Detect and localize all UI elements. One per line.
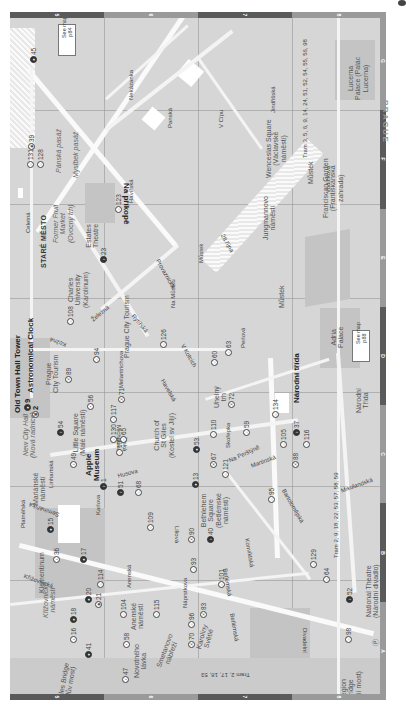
poi-115[interactable]: ○115 [153, 600, 160, 618]
poi-114[interactable]: ○114 [97, 570, 104, 588]
sleep-icon: • [87, 403, 94, 410]
label-anenske-namesti: Anenské náměstí [130, 603, 145, 630]
poi-54[interactable]: ♪54 [57, 421, 64, 436]
poi-116[interactable]: ○116 [303, 430, 310, 448]
poi-64[interactable]: ○64 [323, 568, 330, 583]
poi-59[interactable]: ○59 [243, 421, 250, 436]
shop-icon: ○ [147, 524, 154, 531]
poi-23[interactable]: ♪23 [100, 248, 107, 263]
row-b: B [380, 503, 386, 601]
poi-17[interactable]: ●17 [80, 548, 87, 563]
poi-71[interactable]: ✕71 [118, 388, 125, 403]
poi-51[interactable]: ♪51 [117, 481, 124, 496]
poi-128[interactable]: ○128 [37, 149, 44, 168]
poi-96[interactable]: ○96 [188, 613, 195, 628]
poi-98[interactable]: ○98 [345, 628, 352, 643]
map-canvas[interactable]: See map p84 See map p88 ●45 Nekázanka Pa… [10, 18, 380, 694]
poi-47[interactable]: ♪47 [122, 668, 129, 683]
poi-104[interactable]: ○104 [120, 599, 127, 618]
poi-18[interactable]: ●18 [70, 608, 77, 623]
label-national-theatre: National Theatre (Národní divadlo) [365, 564, 380, 618]
poi-110[interactable]: ○110 [210, 420, 217, 438]
poi-126[interactable]: ○126 [160, 329, 167, 348]
poi-13[interactable]: ●13 [192, 473, 199, 488]
poi-21[interactable]: ◉21 [95, 593, 102, 608]
poi-88[interactable]: ✕88 [292, 453, 299, 468]
poi-20[interactable]: ●20 [85, 588, 92, 603]
poi-15[interactable]: ●15 [47, 518, 54, 533]
entertainment-icon: ♪ [70, 636, 77, 643]
poi-129[interactable]: ○129 [310, 549, 317, 568]
poi-121[interactable]: ○121 [222, 459, 229, 478]
poi-58[interactable]: •58 [123, 633, 130, 648]
poi-68[interactable]: ○68 [135, 481, 142, 496]
drink-icon: ○ [120, 611, 127, 618]
poi-53[interactable]: ●53 [193, 438, 200, 453]
poi-65[interactable]: ○65 [120, 428, 127, 443]
column-5-bottom: 5 [10, 694, 104, 700]
poi-94[interactable]: ○94 [93, 348, 100, 363]
poi-93[interactable]: ○93 [190, 558, 197, 573]
poi-90[interactable]: ✕90 [188, 528, 195, 543]
eat-icon: ✕ [118, 396, 125, 403]
poi-95[interactable]: ○95 [268, 488, 275, 503]
drink-icon: ○ [280, 441, 287, 448]
sleep-icon: • [123, 641, 130, 648]
poi-67[interactable]: ✕67 [210, 453, 217, 468]
poi-105[interactable]: ○105 [280, 429, 287, 448]
street-panska: Panská [167, 108, 173, 128]
column-8-bottom: 8 [292, 694, 386, 700]
entertainment-icon: ♪ [53, 556, 60, 563]
row-e: E [380, 209, 386, 307]
poi-72[interactable]: ✕72 [228, 393, 235, 408]
poi-63[interactable]: ○63 [225, 341, 232, 356]
grid-line [10, 392, 380, 393]
street-jindrisska: Jindřišská [270, 86, 276, 113]
eat-icon: ✕ [228, 401, 235, 408]
drink-icon: ○ [116, 449, 123, 456]
poi-39[interactable]: ◉39 [28, 135, 35, 150]
poi-16[interactable]: ♪16 [70, 628, 77, 643]
poi-109[interactable]: ○109 [147, 512, 154, 531]
poi-123[interactable]: ○123 [115, 194, 122, 213]
entertainment-icon: ♪ [122, 676, 129, 683]
poi-70[interactable]: ✕70 [188, 633, 195, 648]
entertainment-icon: ♪ [117, 489, 124, 496]
poi-1[interactable]: ♪1 [100, 478, 107, 490]
poi-52[interactable]: ♪52 [346, 588, 353, 603]
drink-icon: ○ [225, 349, 232, 356]
street-narodni-trida: Národní třída [293, 353, 301, 403]
row-d: D [380, 307, 386, 405]
poi-41[interactable]: ●41 [85, 643, 92, 658]
poi-36[interactable]: ♪36 [53, 548, 60, 563]
poi-60[interactable]: ○60 [211, 351, 218, 366]
poi-45[interactable]: ●45 [30, 48, 37, 63]
row-c: C [380, 405, 386, 503]
street-divadelni: Divadelní [302, 628, 308, 653]
row-g: G [380, 12, 386, 110]
shop-icon: ○ [97, 581, 104, 588]
poi-108[interactable]: ○108 [67, 306, 74, 325]
label-new-city-hall: New City Hall (Nová radnice) [22, 412, 37, 458]
label-bethlehem-square: Bethlehem Square (Betlémské náměstí) [200, 493, 229, 528]
see-map-callout-p84[interactable]: See map p84 [58, 24, 76, 56]
shop-icon: ○ [310, 561, 317, 568]
poi-49[interactable]: ♪49 [70, 453, 77, 468]
poi-131[interactable]: ○131 [27, 149, 34, 168]
label-prague-city-tourism-2: Prague City Tourism [123, 295, 130, 358]
poi-117[interactable]: ○117 [110, 405, 117, 423]
poi-101[interactable]: ○101 [218, 569, 225, 588]
shop-icon: ○ [37, 161, 44, 168]
poi-40[interactable]: ♪40 [207, 528, 214, 543]
see-map-callout-p88[interactable]: See map p88 [352, 330, 370, 362]
poi-37[interactable]: ♪37 [293, 421, 300, 436]
road-edge [337, 18, 340, 694]
eat-icon: ✕ [65, 376, 72, 383]
poi-134[interactable]: ○134 [272, 399, 279, 418]
label-estates-theatre: Estates Theatre [85, 224, 100, 248]
street-kozna: Kožná [49, 336, 67, 348]
poi-83[interactable]: ✕83 [200, 603, 207, 618]
poi-56[interactable]: •56 [87, 395, 94, 410]
drink-icon: ○ [190, 566, 197, 573]
poi-89[interactable]: ✕89 [65, 368, 72, 383]
